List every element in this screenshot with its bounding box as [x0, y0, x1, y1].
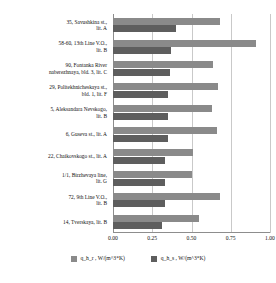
bar-group [113, 80, 270, 102]
y-axis-label-line: lit. B [0, 113, 107, 119]
bar-1 [113, 25, 176, 32]
bar-1 [113, 157, 165, 164]
y-axis-label-line: 22, Chaikovskogo st., lit. A [0, 153, 107, 159]
bar-1 [113, 91, 168, 98]
bar-group [113, 211, 270, 233]
bar-0 [113, 40, 256, 47]
legend-label: q_h_s , W/(m^3*K) [161, 255, 206, 262]
bar-group [113, 14, 270, 36]
x-tick-label: 1.00 [265, 234, 275, 242]
y-axis-label-line: lit. B [0, 200, 107, 206]
y-axis-label: 14, Tverskaya, lit. B [0, 219, 107, 225]
bar-0 [113, 149, 193, 156]
bar-group [113, 189, 270, 211]
legend-swatch-icon [71, 256, 77, 262]
y-axis-labels: 35, Savushkina st.,lit. A58-60, 13th Lin… [0, 14, 110, 233]
y-axis-label: 90, Fontanka Rivernaberezhnaya, bld. 3, … [0, 62, 107, 75]
y-axis-label: 1/1, Birzhevaya line,lit. G [0, 172, 107, 185]
legend-item[interactable]: q_h_r , W/(m^3*K) [71, 255, 125, 262]
y-axis-label-line: lit. G [0, 178, 107, 184]
y-axis-label: 5, Aleksandara Nevskogo,lit. B [0, 106, 107, 119]
bar-0 [113, 171, 192, 178]
bar-chart: 35, Savushkina st.,lit. A58-60, 13th Lin… [0, 0, 276, 283]
bar-0 [113, 127, 217, 134]
bar-0 [113, 105, 212, 112]
x-axis-tick-labels: 0.000.250.500.751.00 [113, 234, 270, 246]
bar-1 [113, 200, 165, 207]
y-axis-label: 29, Politekhnicheskaya st.,bld. 1, lit. … [0, 84, 107, 97]
y-axis-label-line: lit. A [0, 25, 107, 31]
bar-1 [113, 135, 168, 142]
bar-1 [113, 69, 170, 76]
bar-group [113, 145, 270, 167]
x-tick-label: 0.00 [108, 234, 118, 242]
y-axis-label: 72, 9th Line V.O.,lit. B [0, 194, 107, 207]
bar-group [113, 167, 270, 189]
bar-1 [113, 47, 171, 54]
y-axis-label: 22, Chaikovskogo st., lit. A [0, 153, 107, 159]
bar-1 [113, 179, 165, 186]
y-axis-label-line: 14, Tverskaya, lit. B [0, 219, 107, 225]
plot-area [113, 14, 270, 233]
bar-group [113, 36, 270, 58]
y-axis-label: 58-60, 13th Line V.O.,lit. B [0, 40, 107, 53]
x-tick-label: 0.75 [226, 234, 236, 242]
bar-0 [113, 18, 220, 25]
y-axis-label-line: 6, Guseva st., lit. A [0, 131, 107, 137]
chart-legend: q_h_r , W/(m^3*K)q_h_s , W/(m^3*K) [0, 255, 276, 271]
y-axis-label-line: lit. B [0, 47, 107, 53]
bar-group [113, 58, 270, 80]
bar-0 [113, 215, 199, 222]
bar-0 [113, 61, 213, 68]
legend-swatch-icon [151, 256, 157, 262]
bar-group [113, 124, 270, 146]
y-axis-label: 35, Savushkina st.,lit. A [0, 19, 107, 32]
y-axis-label-line: naberezhnaya, bld. 3, lit. C [0, 69, 107, 75]
bar-1 [113, 222, 162, 229]
legend-label: q_h_r , W/(m^3*K) [81, 255, 125, 262]
x-tick-label: 0.25 [147, 234, 157, 242]
bar-0 [113, 193, 220, 200]
gridline-1.00 [270, 14, 271, 233]
x-axis-line [113, 232, 270, 233]
legend-item[interactable]: q_h_s , W/(m^3*K) [151, 255, 206, 262]
x-tick-label: 0.50 [187, 234, 197, 242]
bar-1 [113, 113, 168, 120]
bar-0 [113, 83, 218, 90]
bar-group [113, 102, 270, 124]
y-axis-label-line: bld. 1, lit. F [0, 91, 107, 97]
y-axis-label: 6, Guseva st., lit. A [0, 131, 107, 137]
